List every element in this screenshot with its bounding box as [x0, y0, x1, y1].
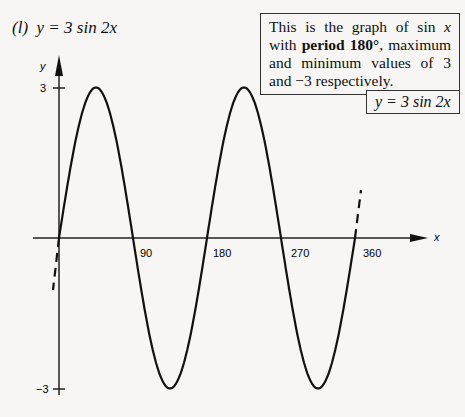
curve-extension-left — [53, 238, 59, 290]
sine-graph: y x 3 −3 90 180 270 360 — [0, 0, 465, 417]
x-tick-label: 270 — [291, 247, 309, 259]
x-tick-label: 90 — [140, 247, 152, 259]
y-tick-label: 3 — [40, 82, 46, 94]
y-tick-label: −3 — [36, 383, 49, 395]
x-axis-label: x — [433, 231, 440, 243]
x-tick-label: 360 — [363, 247, 381, 259]
x-axis-arrow-icon — [410, 234, 428, 242]
y-axis-arrow-icon — [55, 55, 63, 76]
curve-extension-right — [355, 190, 361, 238]
x-tick-label: 180 — [213, 247, 231, 259]
y-axis-label: y — [39, 60, 47, 72]
